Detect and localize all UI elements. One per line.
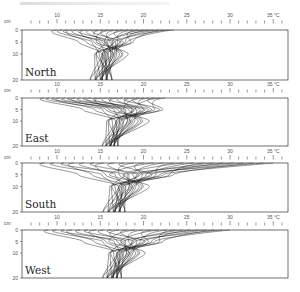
- panel-label: East: [25, 132, 49, 144]
- panel-east: 101520253035 °Ccm051020East: [4, 81, 288, 149]
- x-tick-label: 30: [227, 81, 233, 87]
- temperature-profile-curve: [116, 230, 175, 278]
- x-tick-label: 35 °C: [267, 81, 280, 87]
- plot-frame: [22, 230, 288, 278]
- y-tick-label: 10: [12, 51, 18, 57]
- panel-west: 101520253035 °Ccm051020West: [4, 214, 288, 281]
- unit-cm-label: cm: [4, 87, 11, 93]
- panel-label: South: [25, 198, 56, 210]
- temperature-profile-curve: [90, 30, 153, 80]
- y-tick-label: 20: [12, 143, 18, 149]
- temperature-profile-curve: [119, 163, 173, 212]
- x-tick-label: 35 °C: [267, 148, 280, 154]
- x-tick-label: 35 °C: [267, 12, 280, 18]
- temperature-profile-curve: [96, 30, 128, 80]
- x-tick-label: 25: [184, 148, 190, 154]
- plot-frame: [22, 30, 288, 80]
- y-tick-label: 20: [12, 209, 18, 215]
- x-tick-label: 20: [141, 214, 147, 220]
- x-tick-label: 20: [141, 81, 147, 87]
- panel-label: West: [25, 264, 52, 276]
- temperature-profile-curve: [57, 30, 107, 80]
- temperature-profile-curve: [110, 230, 214, 278]
- y-tick-label: 10: [12, 184, 18, 190]
- y-tick-label: 0: [15, 227, 18, 233]
- temperature-profile-curve: [68, 163, 125, 212]
- x-tick-label: 30: [227, 12, 233, 18]
- temperature-profile-curve: [108, 163, 273, 212]
- x-tick-label: 15: [97, 148, 103, 154]
- y-tick-label: 10: [12, 250, 18, 256]
- temperature-profile-curve: [114, 163, 224, 212]
- temperature-profile-curve: [119, 163, 143, 212]
- y-tick-label: 0: [15, 27, 18, 33]
- x-tick-label: 15: [97, 12, 103, 18]
- temperature-profile-curve: [102, 98, 160, 146]
- soil-temperature-figure: 101520253035 °Ccm051020North101520253035…: [0, 0, 300, 292]
- y-tick-label: 5: [15, 39, 18, 45]
- x-tick-label: 25: [184, 81, 190, 87]
- y-tick-label: 20: [12, 275, 18, 281]
- x-tick-label: 30: [227, 214, 233, 220]
- x-tick-label: 10: [54, 12, 60, 18]
- x-tick-label: 10: [54, 214, 60, 220]
- y-tick-label: 5: [15, 172, 18, 178]
- x-tick-label: 10: [54, 81, 60, 87]
- panel-label: North: [25, 66, 57, 78]
- panel-south: 101520253035 °Ccm051020South: [4, 148, 288, 215]
- temperature-profile-curve: [103, 163, 263, 212]
- x-tick-label: 35 °C: [267, 214, 280, 220]
- x-tick-label: 20: [141, 148, 147, 154]
- panel-north: 101520253035 °Ccm051020North: [4, 12, 288, 83]
- x-tick-label: 30: [227, 148, 233, 154]
- temperature-profile-curve: [111, 163, 253, 212]
- temperature-profile-curve: [90, 163, 139, 212]
- y-tick-label: 0: [15, 95, 18, 101]
- unit-cm-label: cm: [4, 154, 11, 160]
- temperature-profile-curve: [109, 163, 214, 212]
- y-tick-label: 0: [15, 160, 18, 166]
- temperature-profile-curve: [119, 163, 204, 212]
- x-tick-label: 15: [97, 214, 103, 220]
- y-tick-label: 10: [12, 118, 18, 124]
- temperature-profile-curve: [107, 230, 230, 278]
- unit-cm-label: cm: [4, 18, 11, 24]
- unit-cm-label: cm: [4, 220, 11, 226]
- y-tick-label: 20: [12, 77, 18, 83]
- y-tick-label: 5: [15, 239, 18, 245]
- x-tick-label: 10: [54, 148, 60, 154]
- x-tick-label: 25: [184, 214, 190, 220]
- temperature-profile-curve: [98, 230, 126, 278]
- x-tick-label: 25: [184, 12, 190, 18]
- y-tick-label: 5: [15, 107, 18, 113]
- x-tick-label: 15: [97, 81, 103, 87]
- x-tick-label: 20: [141, 12, 147, 18]
- temperature-profile-curve: [52, 230, 117, 278]
